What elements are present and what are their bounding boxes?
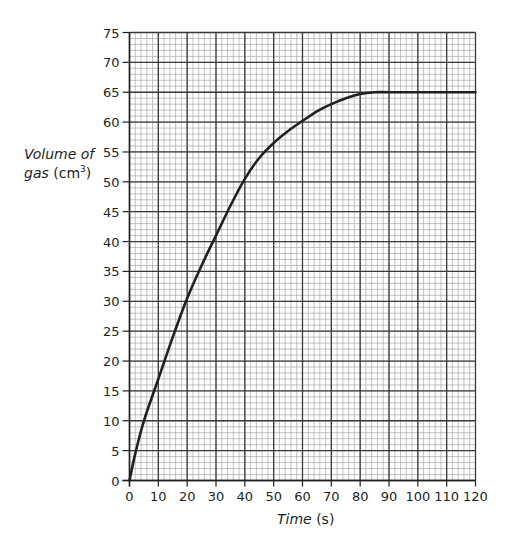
svg-text:40: 40 — [103, 235, 120, 250]
y-axis-label-line1: Volume of — [24, 145, 94, 164]
svg-text:5: 5 — [111, 444, 119, 459]
svg-text:70: 70 — [103, 55, 120, 70]
svg-text:20: 20 — [179, 489, 196, 504]
svg-text:65: 65 — [103, 85, 120, 100]
axis-tick-labels: 0102030405060708090100110120051015202530… — [103, 26, 488, 504]
y-axis-label: Volume of gas (cm3) — [24, 145, 94, 183]
svg-text:100: 100 — [405, 489, 430, 504]
svg-text:30: 30 — [208, 489, 225, 504]
svg-text:110: 110 — [434, 489, 459, 504]
svg-text:10: 10 — [150, 489, 167, 504]
svg-text:40: 40 — [237, 489, 254, 504]
svg-text:90: 90 — [381, 489, 398, 504]
svg-text:60: 60 — [103, 115, 120, 130]
svg-text:50: 50 — [265, 489, 282, 504]
svg-text:120: 120 — [463, 489, 488, 504]
svg-text:30: 30 — [103, 294, 120, 309]
svg-text:0: 0 — [111, 474, 119, 489]
plot-area: 0102030405060708090100110120051015202530… — [0, 0, 510, 552]
svg-text:70: 70 — [323, 489, 340, 504]
svg-text:15: 15 — [103, 384, 120, 399]
svg-text:25: 25 — [103, 324, 120, 339]
chart: 0102030405060708090100110120051015202530… — [0, 0, 510, 552]
svg-text:55: 55 — [103, 145, 120, 160]
svg-text:75: 75 — [103, 26, 120, 41]
svg-text:60: 60 — [294, 489, 311, 504]
svg-text:10: 10 — [103, 414, 120, 429]
svg-text:45: 45 — [103, 205, 120, 220]
svg-text:20: 20 — [103, 354, 120, 369]
svg-text:80: 80 — [352, 489, 369, 504]
svg-text:50: 50 — [103, 175, 120, 190]
svg-text:35: 35 — [103, 264, 120, 279]
y-axis-label-line2: gas (cm3) — [24, 164, 94, 183]
svg-text:0: 0 — [125, 489, 133, 504]
